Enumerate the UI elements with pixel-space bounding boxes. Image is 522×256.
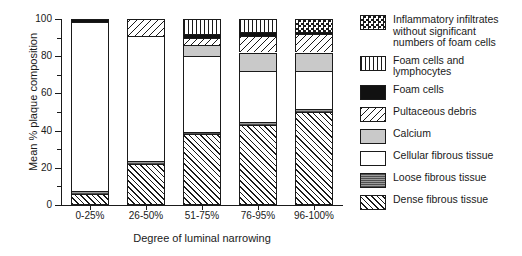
legend-item-pultaceous-debris[interactable]: Pultaceous debris (360, 106, 522, 122)
bar-group[interactable] (295, 19, 333, 205)
bar-group[interactable] (239, 19, 277, 205)
y-tick-0 (55, 205, 61, 206)
bar-segment-pultaceous-debris[interactable] (239, 36, 277, 53)
bar-segment-foam-cells[interactable] (239, 32, 277, 36)
legend-swatch-cellular-fibrous-tissue (360, 151, 386, 166)
stacked-bar[interactable] (295, 19, 333, 205)
legend-label-calcium: Calcium (393, 128, 431, 140)
legend-label-inflammatory-infiltrates: Inflammatory infiltrates without signifi… (393, 14, 499, 49)
bar-segment-loose-fibrous-tissue[interactable] (295, 109, 333, 112)
x-tick-label-0-25%: 0-25% (60, 210, 120, 221)
y-tick-minor-10 (57, 186, 61, 187)
stacked-bar[interactable] (183, 19, 221, 205)
bar-segment-dense-fibrous-tissue[interactable] (71, 194, 109, 205)
bar-segment-cellular-fibrous-tissue[interactable] (239, 71, 277, 122)
bar-segment-foam-cells[interactable] (71, 19, 109, 22)
legend-item-dense-fibrous-tissue[interactable]: Dense fibrous tissue (360, 194, 522, 210)
bar-segment-cellular-fibrous-tissue[interactable] (295, 71, 333, 109)
bar-segment-cellular-fibrous-tissue[interactable] (127, 36, 165, 162)
y-tick-label-40: 40 (28, 126, 52, 136)
y-tick-40 (55, 131, 61, 132)
bar-segment-dense-fibrous-tissue[interactable] (295, 112, 333, 205)
y-tick-label-60: 60 (28, 88, 52, 98)
y-tick-label-20: 20 (28, 163, 52, 173)
legend-label-dense-fibrous-tissue: Dense fibrous tissue (393, 194, 488, 206)
bar-segment-foam-cells[interactable] (295, 32, 333, 34)
bar-segment-calcium[interactable] (239, 53, 277, 72)
legend-label-foam-cells-and-lymphocytes: Foam cells and lymphocytes (393, 55, 522, 78)
y-tick-minor-90 (57, 38, 61, 39)
bar-group[interactable] (183, 19, 221, 205)
bar-segment-foam-cells-and-lymphocytes[interactable] (183, 19, 221, 34)
legend-swatch-foam-cells-and-lymphocytes (360, 56, 386, 71)
bar-segment-dense-fibrous-tissue[interactable] (183, 134, 221, 205)
y-tick-20 (55, 168, 61, 169)
plot-area (62, 19, 342, 205)
y-tick-minor-30 (57, 149, 61, 150)
bar-group[interactable] (71, 19, 109, 205)
legend-swatch-dense-fibrous-tissue (360, 195, 386, 210)
bar-segment-dense-fibrous-tissue[interactable] (239, 125, 277, 205)
stacked-bar[interactable] (239, 19, 277, 205)
chart-legend: Inflammatory infiltrates without signifi… (360, 14, 522, 216)
bar-segment-foam-cells-and-lymphocytes[interactable] (239, 19, 277, 32)
stacked-bar[interactable] (127, 19, 165, 205)
bar-segment-loose-fibrous-tissue[interactable] (71, 191, 109, 194)
x-tick-label-26-50%: 26-50% (116, 210, 176, 221)
bar-segment-calcium[interactable] (183, 45, 221, 56)
legend-label-cellular-fibrous-tissue: Cellular fibrous tissue (393, 150, 493, 162)
y-tick-label-80: 80 (28, 51, 52, 61)
y-tick-label-0: 0 (28, 200, 52, 210)
bar-segment-foam-cells[interactable] (183, 34, 221, 38)
legend-item-loose-fibrous-tissue[interactable]: Loose fibrous tissue (360, 172, 522, 188)
legend-swatch-foam-cells (360, 85, 386, 100)
y-tick-minor-50 (57, 112, 61, 113)
bar-group[interactable] (127, 19, 165, 205)
y-axis-tick-labels: 020406080100 (24, 0, 52, 256)
legend-swatch-pultaceous-debris (360, 107, 386, 122)
bar-segment-cellular-fibrous-tissue[interactable] (71, 22, 109, 191)
legend-label-pultaceous-debris: Pultaceous debris (393, 106, 476, 118)
bar-segment-loose-fibrous-tissue[interactable] (239, 122, 277, 125)
legend-label-foam-cells: Foam cells (393, 84, 444, 96)
bar-segment-inflammatory-infiltrates[interactable] (295, 19, 333, 32)
y-tick-80 (55, 56, 61, 57)
legend-item-inflammatory-infiltrates[interactable]: Inflammatory infiltrates without signifi… (360, 14, 522, 49)
bar-segment-pultaceous-debris[interactable] (183, 38, 221, 45)
y-tick-minor-70 (57, 75, 61, 76)
y-tick-label-100: 100 (28, 14, 52, 24)
legend-swatch-loose-fibrous-tissue (360, 173, 386, 188)
chart-figure: Mean % plaque composition 020406080100 0… (0, 0, 522, 256)
bar-segment-loose-fibrous-tissue[interactable] (127, 161, 165, 164)
legend-item-foam-cells-and-lymphocytes[interactable]: Foam cells and lymphocytes (360, 55, 522, 78)
legend-swatch-calcium (360, 129, 386, 144)
legend-item-cellular-fibrous-tissue[interactable]: Cellular fibrous tissue (360, 150, 522, 166)
y-tick-100 (55, 19, 61, 20)
legend-swatch-inflammatory-infiltrates (360, 15, 386, 30)
bar-segment-calcium[interactable] (295, 53, 333, 72)
x-tick-label-76-95%: 76-95% (228, 210, 288, 221)
y-tick-60 (55, 93, 61, 94)
stacked-bar[interactable] (71, 19, 109, 205)
bar-segment-pultaceous-debris[interactable] (295, 34, 333, 53)
x-tick-label-96-100%: 96-100% (284, 210, 344, 221)
bar-segment-cellular-fibrous-tissue[interactable] (183, 56, 221, 131)
legend-label-loose-fibrous-tissue: Loose fibrous tissue (393, 172, 486, 184)
x-tick-label-51-75%: 51-75% (172, 210, 232, 221)
legend-item-calcium[interactable]: Calcium (360, 128, 522, 144)
x-axis-title: Degree of luminal narrowing (61, 232, 343, 244)
bar-segment-pultaceous-debris[interactable] (127, 19, 165, 36)
legend-item-foam-cells[interactable]: Foam cells (360, 84, 522, 100)
bar-segment-loose-fibrous-tissue[interactable] (183, 132, 221, 135)
bar-segment-dense-fibrous-tissue[interactable] (127, 164, 165, 205)
